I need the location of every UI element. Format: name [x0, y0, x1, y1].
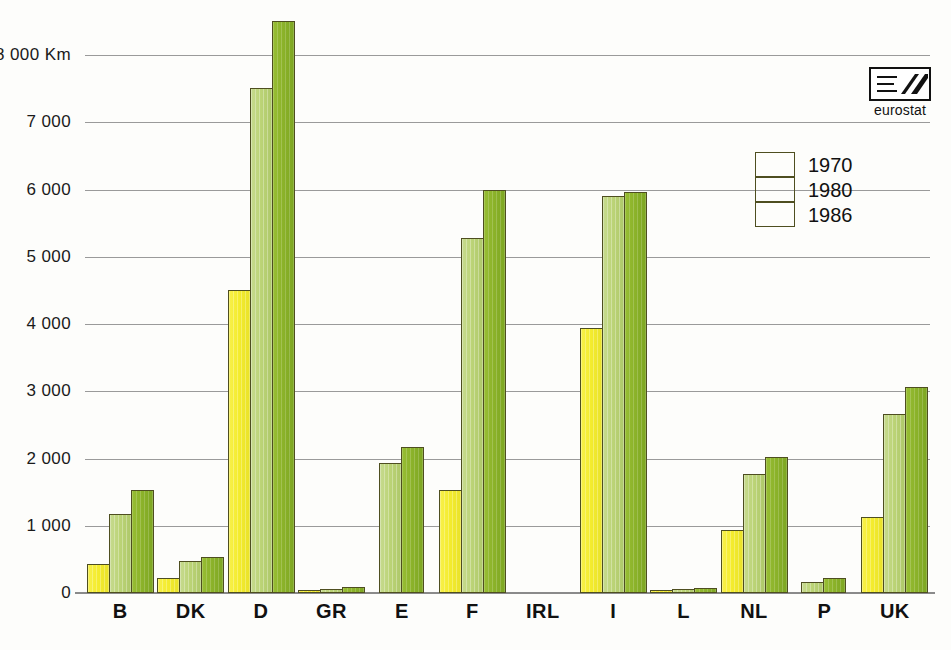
legend-swatch — [755, 152, 795, 177]
legend-swatch — [755, 177, 795, 202]
y-axis-tick-label: 3 000 — [26, 381, 71, 401]
y-axis-tick-label: 5 000 — [26, 246, 71, 266]
bar — [379, 463, 402, 593]
bar-group — [437, 55, 507, 593]
x-axis-labels: BDKDGREFIRLILNLPUK — [85, 600, 930, 623]
bar — [905, 387, 928, 593]
x-axis-label: P — [789, 600, 859, 623]
bar-group — [648, 55, 718, 593]
legend-label: 1970 — [808, 155, 853, 175]
bar — [483, 190, 506, 593]
bar — [401, 447, 424, 593]
bar — [179, 561, 202, 593]
bar — [201, 557, 224, 593]
x-axis-label: NL — [719, 600, 789, 623]
bar — [743, 474, 766, 593]
bar — [298, 590, 321, 593]
bar — [342, 587, 365, 593]
bar — [580, 328, 603, 593]
bar-group — [508, 55, 578, 593]
bar — [157, 578, 180, 593]
bar — [624, 192, 647, 593]
bar — [109, 514, 132, 593]
x-axis-label: IRL — [508, 600, 578, 623]
x-axis-label: E — [367, 600, 437, 623]
chart-legend: 197019801986 — [755, 152, 853, 227]
plot-area: 01 0002 0003 0004 0005 0006 0007 0008 00… — [85, 55, 930, 593]
bar — [250, 88, 273, 593]
bar — [801, 582, 824, 593]
bar — [694, 588, 717, 593]
y-axis-tick-label: 4 000 — [26, 314, 71, 334]
chart-container: 01 0002 0003 0004 0005 0006 0007 0008 00… — [0, 0, 951, 650]
y-axis-tick-label: 8 000 Km — [0, 45, 71, 65]
bar-group — [155, 55, 225, 593]
x-axis-label: D — [226, 600, 296, 623]
x-axis-label: B — [85, 600, 155, 623]
legend-item: 1986 — [755, 202, 853, 227]
y-axis-tick-label: 6 000 — [26, 179, 71, 199]
x-axis-label: F — [437, 600, 507, 623]
bar-group — [719, 55, 789, 593]
bar — [320, 589, 343, 593]
bar — [131, 490, 154, 593]
bar-group — [860, 55, 930, 593]
y-axis-tick-label: 7 000 — [26, 112, 71, 132]
bar-group — [789, 55, 859, 593]
eurostat-wordmark: eurostat — [869, 102, 931, 118]
bar-group — [226, 55, 296, 593]
bar — [883, 414, 906, 593]
bar — [823, 578, 846, 593]
legend-item: 1980 — [755, 177, 853, 202]
bar — [461, 238, 484, 593]
bar — [765, 457, 788, 593]
legend-swatch — [755, 202, 795, 227]
x-axis-label: I — [578, 600, 648, 623]
eurostat-glyph-icon — [871, 69, 929, 99]
bar — [861, 517, 884, 593]
bar — [228, 290, 251, 593]
x-axis-label: GR — [296, 600, 366, 623]
x-axis-label: DK — [155, 600, 225, 623]
bar — [602, 196, 625, 593]
y-axis-tick-label: 1 000 — [26, 515, 71, 535]
legend-label: 1986 — [808, 205, 853, 225]
legend-label: 1980 — [808, 180, 853, 200]
bar-group — [85, 55, 155, 593]
bar — [721, 530, 744, 593]
legend-item: 1970 — [755, 152, 853, 177]
x-axis-label: L — [648, 600, 718, 623]
bar — [650, 590, 673, 593]
bar-groups — [85, 55, 930, 593]
bar — [87, 564, 110, 593]
y-axis-tick-label: 0 — [61, 583, 71, 603]
bar-group — [367, 55, 437, 593]
x-axis-label: UK — [860, 600, 930, 623]
bar — [439, 490, 462, 593]
y-axis-tick-label: 2 000 — [26, 448, 71, 468]
bar-group — [578, 55, 648, 593]
bar-group — [296, 55, 366, 593]
bar — [272, 21, 295, 593]
bar — [672, 589, 695, 593]
eurostat-logo: eurostat — [869, 67, 931, 118]
eurostat-symbol-icon — [869, 67, 931, 101]
